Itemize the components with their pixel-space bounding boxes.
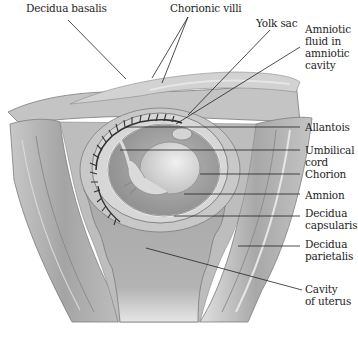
yolk-sac <box>172 128 192 140</box>
label-chorionic-villi: Chorionic villi <box>170 2 242 14</box>
label-chorion: Chorion <box>305 168 346 180</box>
label-umbilical-cord: Umbilical cord <box>305 144 354 168</box>
label-allantois: Allantois <box>305 121 350 133</box>
label-decidua-basalis: Decidua basalis <box>26 2 107 14</box>
label-yolk-sac: Yolk sac <box>256 17 297 29</box>
label-cavity-of-uterus: Cavity of uterus <box>305 283 351 307</box>
label-decidua-capsularis: Decidua capsularis <box>305 207 357 231</box>
label-amniotic-fluid: Amniotic fluid in amniotic cavity <box>305 23 351 71</box>
label-decidua-parietalis: Decidua parietalis <box>305 238 353 262</box>
label-amnion: Amnion <box>305 189 345 201</box>
